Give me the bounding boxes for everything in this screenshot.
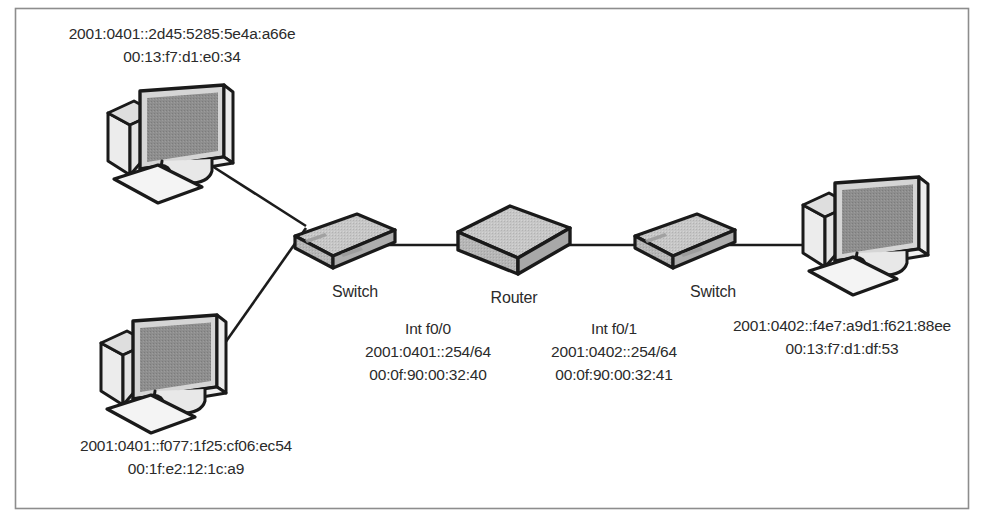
device-router[interactable] [458, 206, 570, 274]
switch-right-label: Switch [690, 283, 736, 300]
router-int-f0-1-name: Int f0/1 [591, 320, 637, 337]
pc-right-ipv6-label: 2001:0402::f4e7:a9d1:f621:88ee [733, 317, 951, 334]
device-pc-right[interactable] [803, 177, 928, 295]
network-diagram-figure: 2001:0401::2d45:5285:5e4a:a66e 00:13:f7:… [0, 0, 985, 518]
pc-bottom-left-ipv6-label: 2001:0401::f077:1f25:cf06:ec54 [80, 437, 293, 454]
router-int-f0-1-ipv6: 2001:0402::254/64 [551, 343, 677, 360]
switch-left-label: Switch [332, 283, 378, 300]
device-pc-top-left[interactable] [108, 85, 233, 203]
pc-top-left-ipv6-label: 2001:0401::2d45:5285:5e4a:a66e [69, 25, 296, 42]
router-label: Router [491, 289, 539, 306]
router-int-f0-0-mac: 00:0f:90:00:32:40 [369, 366, 487, 383]
router-int-f0-0-ipv6: 2001:0401::254/64 [365, 343, 491, 360]
desktop-computer-icon [108, 85, 233, 203]
device-switch-left[interactable] [295, 214, 395, 268]
pc-top-left-mac-label: 00:13:f7:d1:e0:34 [123, 48, 241, 65]
network-switch-icon [635, 214, 735, 268]
desktop-computer-icon [101, 315, 226, 433]
link-pc-top-left-to-switch-left [212, 166, 306, 226]
device-switch-right[interactable] [635, 214, 735, 268]
network-topology-canvas: 2001:0401::2d45:5285:5e4a:a66e 00:13:f7:… [0, 0, 985, 518]
device-pc-bottom-left[interactable] [101, 315, 226, 433]
link-lines-group [196, 166, 812, 384]
pc-right-mac-label: 00:13:f7:d1:df:53 [786, 340, 899, 357]
network-switch-icon [295, 214, 395, 268]
router-int-f0-1-mac: 00:0f:90:00:32:41 [555, 366, 672, 383]
pc-bottom-left-mac-label: 00:1f:e2:12:1c:a9 [128, 460, 244, 477]
router-int-f0-0-name: Int f0/0 [405, 320, 451, 337]
router-icon [458, 206, 570, 274]
desktop-computer-icon [803, 177, 928, 295]
